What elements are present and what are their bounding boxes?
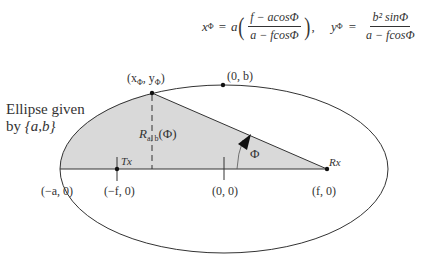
equation-x-phi: xΦ = a ( f − acosΦ a − fcosΦ ), [202, 10, 315, 43]
label-angle: Φ [250, 147, 260, 160]
shaded-region [60, 93, 327, 169]
point-tx [115, 167, 119, 171]
point-phi [150, 91, 154, 95]
label-radius: Ra, b(Φ) [139, 127, 177, 143]
ellipse-title: Ellipse given by {a,b} [6, 101, 85, 135]
label-neg-a: (−a, 0) [41, 185, 73, 197]
label-0-b: (0, b) [227, 70, 253, 82]
equation-y-phi: yΦ = b² sinΦ a − fcosΦ [331, 10, 419, 43]
label-point-phi: (xΦ, yΦ) [127, 72, 165, 87]
eq-y-fraction: b² sinΦ a − fcosΦ [364, 10, 417, 43]
label-rx: Rx [329, 157, 341, 168]
label-origin: (0, 0) [212, 185, 238, 197]
label-pos-f: (f, 0) [312, 185, 336, 197]
point-0-b [221, 83, 225, 87]
label-tx: Tx [121, 156, 132, 167]
label-neg-f: (−f, 0) [104, 185, 135, 197]
eq-x-fraction: f − acosΦ a − fcosΦ [248, 10, 301, 43]
